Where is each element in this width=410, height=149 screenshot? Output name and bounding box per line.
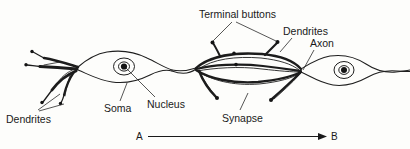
synapse-region — [196, 40, 301, 102]
leader-dendrites-right — [280, 38, 292, 52]
terminal-button-dot-lower-right — [269, 98, 273, 102]
dendrite-branch-lower-tip — [43, 90, 52, 102]
leader-synapse — [240, 93, 248, 110]
leader-nucleus — [126, 68, 155, 97]
axon-left-lower — [172, 69, 196, 73]
left-neuron — [24, 50, 196, 105]
label-terminal-buttons: Terminal buttons — [199, 8, 276, 20]
dendrite-tip-dot-1 — [30, 50, 33, 53]
label-axon: Axon — [310, 37, 334, 49]
soma-left-bottom-outline — [78, 70, 172, 83]
label-synapse: Synapse — [222, 112, 263, 124]
dendrite-branch-middle — [40, 67, 77, 70]
dendrite-tip-dot-3 — [40, 101, 43, 104]
leader-soma — [120, 83, 127, 101]
dendrite-tip-dot-2 — [24, 63, 27, 66]
leader-axon — [303, 50, 314, 70]
axon-left-upper — [172, 68, 196, 71]
dendrite-branch-middle-tip — [27, 65, 40, 67]
neuron-diagram-canvas: Terminal buttons Dendrites Axon Dendrite… — [0, 0, 410, 149]
label-soma: Soma — [104, 102, 132, 114]
terminal-branch-upper-left — [213, 43, 220, 56]
terminal-button-dot-lens-upper — [232, 51, 236, 55]
direction-arrow-head — [318, 133, 327, 140]
right-neuron — [301, 55, 410, 85]
terminal-branch-upper-right — [265, 43, 277, 55]
leader-terminal-buttons-left — [213, 22, 232, 41]
nucleus-right-dot — [341, 67, 347, 73]
label-nucleus: Nucleus — [147, 98, 185, 110]
direction-arrow-group: A B — [136, 131, 338, 142]
terminal-button-dot-upper-right — [276, 40, 280, 44]
soma-right-bottom-outline — [301, 71, 410, 86]
label-dendrites-right: Dendrites — [283, 25, 328, 37]
axis-start-letter: A — [136, 131, 143, 142]
neuron-diagram-figure: Terminal buttons Dendrites Axon Dendrite… — [0, 0, 410, 149]
leader-dendrites-left-b — [39, 104, 64, 111]
label-dendrites-left: Dendrites — [6, 113, 51, 125]
terminal-button-dot-lower-left — [215, 96, 219, 100]
leader-terminal-buttons-right — [236, 22, 276, 41]
terminal-arbor-lower-outer — [196, 70, 301, 82]
soma-right-top-outline — [301, 55, 410, 72]
dendrite-inner-line-2 — [44, 62, 60, 65]
terminal-button-dot-upper-left — [211, 41, 215, 45]
dendrites-left-branches — [24, 50, 78, 105]
dendrite-branch-upper-tip — [33, 52, 44, 58]
axis-end-letter: B — [331, 131, 338, 142]
terminal-button-dot-lens-mid — [234, 63, 238, 67]
dendrite-branch-lower2-tip — [61, 95, 64, 103]
